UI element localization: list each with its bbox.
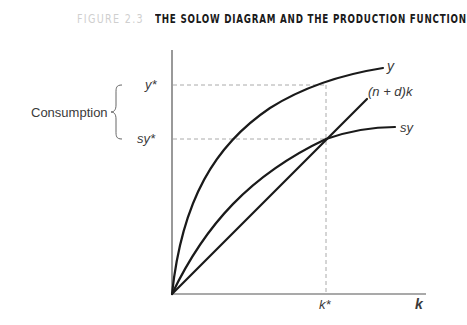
curve-ndk-label: (n + d)k	[368, 84, 414, 99]
depreciation-line	[172, 99, 367, 294]
curve-sy-label: sy	[400, 120, 415, 135]
y-star-label: y*	[144, 77, 158, 92]
sy-star-label: sy*	[137, 131, 156, 146]
curves	[172, 68, 395, 294]
consumption-label: Consumption	[31, 105, 108, 120]
investment-curve-sy	[172, 127, 395, 294]
curve-y-label: y	[386, 58, 395, 74]
k-axis-label: k	[415, 296, 424, 312]
k-star-label: k*	[319, 297, 332, 312]
production-curve-y	[172, 68, 383, 294]
consumption-brace	[111, 85, 122, 139]
